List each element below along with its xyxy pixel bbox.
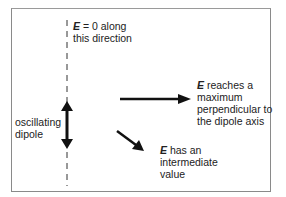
label-e-intermediate: E has an intermediate value xyxy=(160,144,218,180)
label-e-zero: E = 0 along this direction xyxy=(73,20,132,44)
label-oscillating-dipole: oscillating dipole xyxy=(15,116,61,140)
label-e-maximum: E reaches a maximum perpendicular to the… xyxy=(197,79,272,127)
diagonal-arrow-icon xyxy=(117,131,136,145)
